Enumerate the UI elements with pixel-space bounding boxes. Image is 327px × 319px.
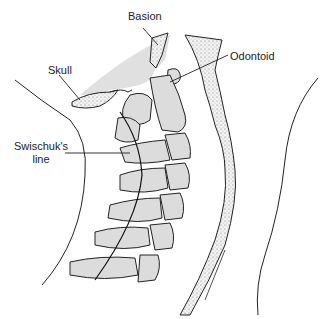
label-skull: Skull (48, 64, 72, 77)
c2-body (150, 75, 186, 132)
skull-leader (59, 75, 80, 100)
face-outline (15, 80, 85, 285)
label-swischuk-line: Swischuk's line (14, 140, 68, 166)
label-basion: Basion (128, 10, 162, 23)
label-odontoid: Odontoid (230, 50, 275, 63)
neck-outline (257, 78, 318, 315)
